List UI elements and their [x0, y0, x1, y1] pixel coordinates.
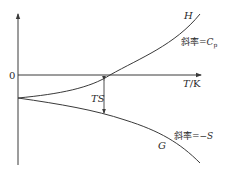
enthalpy-curve-h	[18, 14, 200, 98]
x-axis-unit: /K	[190, 78, 201, 89]
gibbs-curve-g	[18, 98, 200, 163]
h-slope-prefix: 斜率=	[181, 36, 207, 47]
x-axis-label: T/K	[183, 78, 201, 89]
y-zero-label: 0	[9, 70, 15, 81]
g-slope-var: −S	[200, 131, 214, 141]
h-slope-label: 斜率=Cp	[181, 36, 217, 49]
g-slope-label: 斜率=−S	[174, 130, 213, 141]
curve-label-g: G	[158, 140, 166, 151]
g-slope-prefix: 斜率=	[174, 130, 200, 141]
h-slope-sub: p	[213, 41, 217, 49]
ts-label: TS	[91, 93, 105, 104]
curve-label-h: H	[183, 10, 193, 21]
thermo-diagram: 0 T/K H 斜率=Cp TS 斜率=−S G	[0, 0, 225, 170]
